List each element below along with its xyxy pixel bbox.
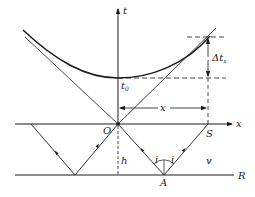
delta-t-label: Δtx bbox=[211, 52, 227, 64]
t-axis-label: t bbox=[123, 5, 128, 16]
depth-label: h bbox=[121, 155, 127, 166]
traveltime-hyperbola bbox=[23, 30, 210, 78]
offset-dimension: x bbox=[120, 102, 206, 113]
t-axis: t bbox=[118, 5, 128, 124]
delta-t-dimension: Δtx bbox=[208, 39, 227, 76]
reflector-label: R bbox=[237, 170, 246, 181]
x-axis-label: x bbox=[236, 118, 242, 129]
t0-label: t0 bbox=[121, 80, 129, 92]
origin-label: O bbox=[103, 125, 111, 136]
incidence-angle-right-label: i bbox=[171, 154, 174, 165]
reflection-point-label: A bbox=[159, 177, 167, 188]
incidence-angle-left-label: i bbox=[155, 154, 158, 165]
offset-label: x bbox=[160, 102, 166, 113]
reflection-traveltime-diagram: t x R Δtx t0 x O h bbox=[0, 0, 255, 197]
reflector-line: R bbox=[15, 170, 246, 181]
asymptote-right bbox=[118, 28, 216, 124]
asymptote-left bbox=[25, 37, 118, 124]
receiver-label: S bbox=[206, 128, 213, 139]
ray-path-right bbox=[118, 124, 208, 175]
velocity-label: v bbox=[206, 155, 212, 166]
ray-arrow-left-down-icon bbox=[55, 151, 59, 156]
